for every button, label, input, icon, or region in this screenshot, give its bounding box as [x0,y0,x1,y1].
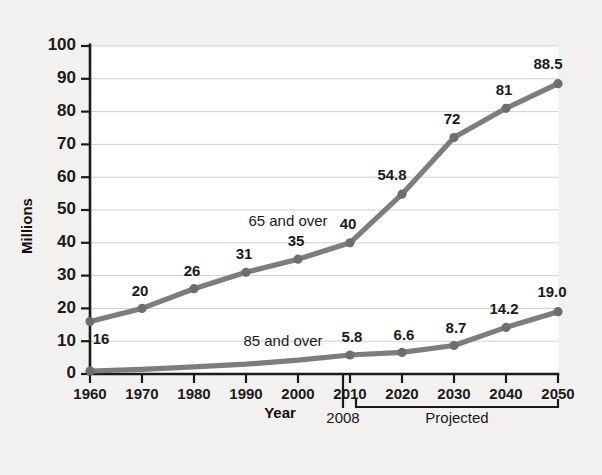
x-tick-1990: 1990 [229,385,262,402]
y-tick-60: 60 [57,167,76,186]
y-tick-50: 50 [57,199,76,218]
x-tick-2010: 2010 [333,385,366,402]
point-label-85-2010: 5.8 [342,328,363,345]
series-label-65-and-over: 65 and over [248,212,327,229]
x-tick-2020: 2020 [385,385,418,402]
y-tick-100: 100 [48,35,76,54]
y-tick-70: 70 [57,134,76,153]
point-label-65-2010: 40 [340,215,357,232]
point-label-65-2050: 88.5 [533,55,562,72]
divider-2008-label: 2008 [326,409,359,426]
chart-figure: 100 90 80 70 60 50 40 30 20 10 0 Million… [0,0,602,475]
y-tick-30: 30 [57,265,76,284]
point-label-65-2020: 54.8 [377,166,406,183]
projected-label: Projected [425,409,488,426]
line-chart: 100 90 80 70 60 50 40 30 20 10 0 Million… [0,0,602,475]
point-label-85-2050: 19.0 [537,283,566,300]
point-label-85-2040: 14.2 [489,300,518,317]
x-tick-2040: 2040 [489,385,522,402]
x-tick-1980: 1980 [177,385,210,402]
y-tick-90: 90 [57,68,76,87]
point-label-65-1990: 31 [236,245,253,262]
x-tick-1970: 1970 [125,385,158,402]
x-tick-2030: 2030 [437,385,470,402]
y-tick-80: 80 [57,101,76,120]
point-label-85-2030: 8.7 [446,319,467,336]
x-tick-1960: 1960 [73,385,106,402]
y-axis-title: Millions [18,198,35,254]
series-label-85-and-over: 85 and over [243,332,322,349]
y-tick-20: 20 [57,298,76,317]
point-label-65-1980: 26 [184,262,201,279]
y-tick-40: 40 [57,232,76,251]
point-label-65-2040: 81 [496,81,513,98]
x-tickmarks [90,374,558,383]
x-tick-2000: 2000 [281,385,314,402]
point-label-65-2000: 35 [288,232,305,249]
point-label-65-1960: 16 [93,330,110,347]
x-axis-title: Year [264,404,296,421]
point-label-65-2030: 72 [444,110,461,127]
point-label-65-1970: 20 [132,282,149,299]
x-axis-tick-labels: 1960 1970 1980 1990 2000 2010 2020 2030 … [73,385,574,402]
y-axis-tick-labels: 100 90 80 70 60 50 40 30 20 10 0 [48,35,76,382]
point-label-85-2020: 6.6 [394,326,415,343]
y-tick-10: 10 [57,331,76,350]
y-tick-0: 0 [67,363,76,382]
